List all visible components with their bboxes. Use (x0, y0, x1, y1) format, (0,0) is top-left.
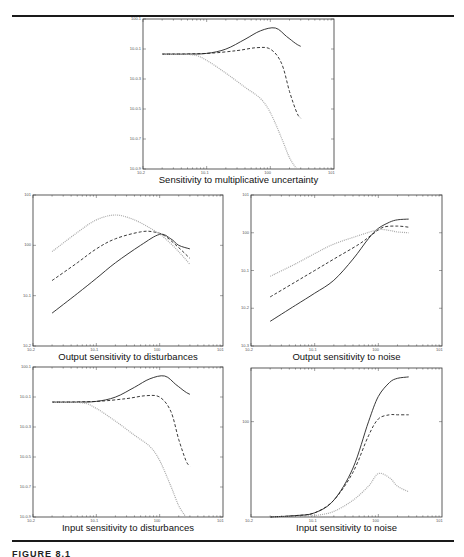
series-solid-line (162, 28, 301, 54)
figure-plots (0, 0, 464, 557)
y-tick-label: 10-0.7 (123, 136, 141, 141)
plot-bottom-left (33, 367, 223, 517)
x-tick-label: 10-2 (27, 518, 35, 523)
series-dashed-line (270, 414, 409, 517)
title-top: Sensitivity to multiplicative uncertaint… (143, 174, 334, 185)
figure-caption: FIGURE 8.1 (12, 549, 71, 557)
plot-mid-left (33, 195, 223, 346)
x-tick-label: 100 (264, 170, 271, 175)
x-tick-label: 100 (154, 347, 161, 352)
series-solid-line (270, 219, 409, 321)
x-tick-label: 101 (217, 518, 224, 523)
y-tick-label: 100 (231, 230, 249, 235)
x-tick-label: 100 (372, 347, 379, 352)
y-tick-label: 10-2 (231, 305, 249, 310)
x-tick-label: 10-1 (309, 518, 317, 523)
series-dotted-line (270, 473, 409, 517)
y-tick-label: 100.1 (13, 364, 31, 369)
series-dotted-line (162, 54, 297, 169)
series-solid-line (52, 234, 190, 313)
title-mid-left: Output sensitivity to disturbances (33, 351, 223, 362)
x-tick-label: 100 (372, 518, 379, 523)
y-tick-label: 100 (231, 419, 249, 424)
plot-bottom-right (251, 368, 442, 517)
x-tick-label: 10-2 (27, 347, 35, 352)
x-tick-label: 10-2 (137, 170, 145, 175)
x-tick-label: 101 (436, 518, 443, 523)
y-tick-label: 10-0.3 (123, 76, 141, 81)
x-tick-label: 101 (217, 347, 224, 352)
plot-frame (143, 19, 334, 169)
series-dotted-line (52, 215, 190, 264)
series-solid-line (270, 377, 409, 517)
plot-top (143, 19, 334, 169)
plot-mid-right (251, 195, 442, 346)
y-tick-label: 100.1 (123, 16, 141, 21)
series-dashed-line (52, 231, 190, 280)
y-tick-label: 101 (231, 192, 249, 197)
title-mid-right: Output sensitivity to noise (251, 351, 442, 362)
series-dotted-line (270, 229, 409, 276)
title-bottom-right: Input sensitivity to noise (251, 522, 442, 533)
x-tick-label: 100 (154, 518, 161, 523)
y-tick-label: 10-0.3 (13, 424, 31, 429)
y-tick-label: 10-1 (13, 293, 31, 298)
y-tick-label: 10-0.1 (123, 46, 141, 51)
series-dashed-line (270, 226, 409, 297)
series-dashed-line (162, 47, 301, 118)
x-tick-label: 101 (436, 347, 443, 352)
x-tick-label: 10-2 (245, 518, 253, 523)
series-dashed-line (52, 395, 190, 466)
series-solid-line (52, 376, 190, 402)
y-tick-label: 101 (13, 192, 31, 197)
plot-frame (251, 195, 442, 346)
y-tick-label: 10-0.7 (13, 484, 31, 489)
x-tick-label: 10-1 (201, 170, 209, 175)
y-tick-label: 10-0.5 (123, 106, 141, 111)
x-tick-label: 10-1 (90, 347, 98, 352)
x-tick-label: 10-2 (245, 347, 253, 352)
title-bottom-left: Input sensitivity to disturbances (33, 522, 223, 533)
y-tick-label: 100 (13, 242, 31, 247)
x-tick-label: 101 (328, 170, 335, 175)
x-tick-label: 10-1 (309, 347, 317, 352)
x-tick-label: 10-1 (90, 518, 98, 523)
plot-frame (33, 195, 223, 346)
y-tick-label: 10-0.5 (13, 454, 31, 459)
series-dotted-line (52, 402, 186, 517)
plot-frame (251, 368, 442, 517)
y-tick-label: 10-0.1 (13, 394, 31, 399)
y-tick-label: 10-1 (231, 268, 249, 273)
plot-frame (33, 367, 223, 517)
